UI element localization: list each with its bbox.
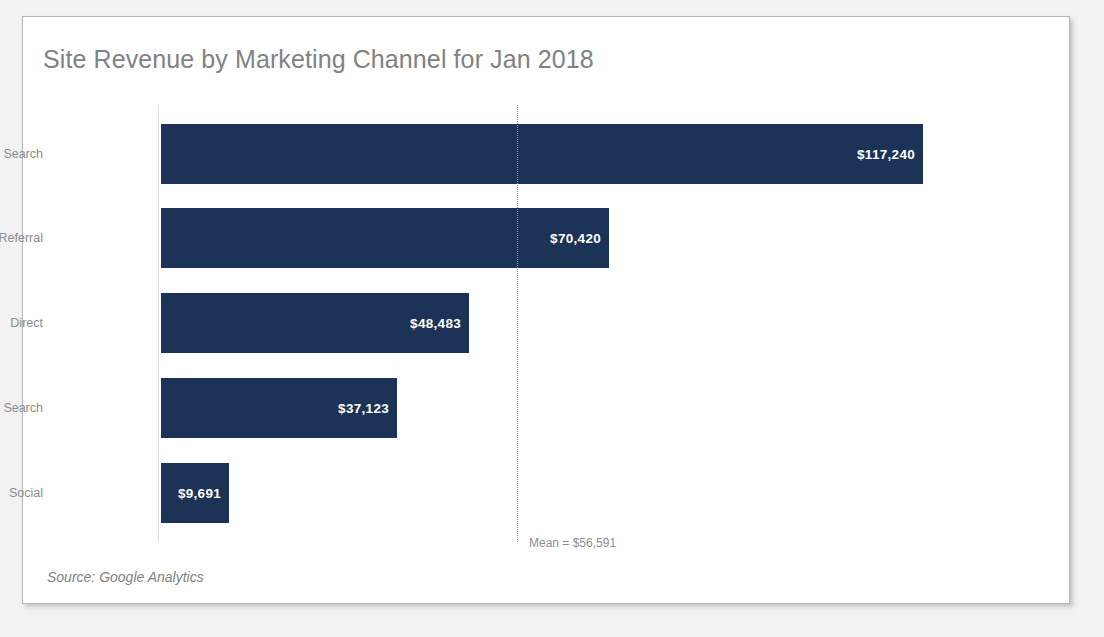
bar-row[interactable]: Referral $70,420 [23, 208, 1069, 268]
bar-value-social: $9,691 [178, 486, 221, 501]
category-label-paid-search: Paid Search [0, 401, 43, 415]
bar-value-organic-search: $117,240 [857, 147, 915, 162]
bar-social[interactable]: $9,691 [161, 463, 229, 523]
chart-card: Site Revenue by Marketing Channel for Ja… [22, 16, 1070, 604]
category-label-social: Social [9, 486, 43, 500]
source-note: Source: Google Analytics [47, 569, 204, 585]
category-label-organic-search: Organic Search [0, 147, 43, 161]
bar-value-direct: $48,483 [410, 316, 461, 331]
bar-row[interactable]: Social $9,691 [23, 463, 1069, 523]
category-label-referral: Referral [0, 231, 43, 245]
bar-paid-search[interactable]: $37,123 [161, 378, 397, 438]
bar-referral[interactable]: $70,420 [161, 208, 609, 268]
bar-row[interactable]: Organic Search $117,240 [23, 124, 1069, 184]
mean-reference-label: Mean = $56,591 [529, 536, 616, 550]
bar-direct[interactable]: $48,483 [161, 293, 469, 353]
category-label-direct: Direct [10, 316, 43, 330]
bar-value-referral: $70,420 [550, 231, 601, 246]
bar-row[interactable]: Paid Search $37,123 [23, 378, 1069, 438]
mean-reference-line [517, 105, 518, 542]
bar-value-paid-search: $37,123 [338, 401, 389, 416]
bar-row[interactable]: Direct $48,483 [23, 293, 1069, 353]
plot-area: Organic Search $117,240 Referral $70,420… [23, 17, 1069, 603]
bar-organic-search[interactable]: $117,240 [161, 124, 923, 184]
